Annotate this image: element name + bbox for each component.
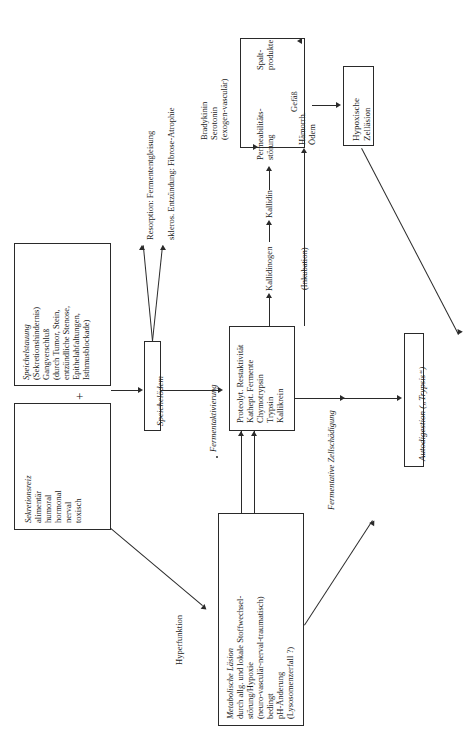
box-fermente-text: Proteolyt. Restaktivität Kathept. Fermen… — [236, 345, 286, 423]
text-line: Hypoxische — [351, 98, 362, 141]
text-line: (exogen-vasculär) — [220, 79, 230, 140]
connector-kallidin-to-permeabilitaet — [269, 168, 270, 190]
arrowhead-up — [266, 293, 272, 298]
connector-stauung-to-oedem — [111, 390, 138, 391]
connector-zellaesion-to-autodigestion — [361, 148, 459, 335]
label-kallidinogen: Kallidinogen — [265, 247, 274, 291]
text-line: Ödem — [308, 112, 318, 145]
text-line: störung — [266, 109, 276, 160]
arrowhead-right — [397, 395, 402, 401]
box-autodigestion-text: Autodigestion („Trypsis“) — [418, 367, 427, 461]
text-line: Zelläsion — [362, 98, 373, 141]
loop-right-vertical — [304, 38, 305, 148]
loop-left-vertical — [240, 38, 241, 148]
joint-dot — [216, 456, 218, 458]
connector-kallidinogen-to-kallidin — [269, 222, 270, 242]
arrowhead-down — [455, 329, 463, 336]
text-line: Kallikrein — [276, 345, 286, 423]
connector-oedem-to-resorption — [143, 245, 153, 341]
connector-laesion-to-fermente-a — [241, 431, 242, 513]
connector-fermente-to-autodigestion — [295, 398, 397, 399]
arrowhead-up — [160, 245, 166, 250]
arrowhead-right — [138, 387, 143, 393]
text-line: (Lysosomenzerfall ?) — [286, 596, 296, 719]
text-line: Isthmusblockade) — [82, 306, 92, 380]
box-speichelstauung-text: Speichelstauung (Sekretionshindernis) Ga… — [22, 306, 92, 380]
label-fermentaktivierung: Fermentaktivierung — [209, 384, 218, 452]
label-spaltprodukte: Spalt- produkte — [256, 40, 276, 70]
connector-sekretionsreiz-to-laesion — [110, 528, 203, 606]
box-metabolische-laesion-text: Metabolische Läsion durch allg. und loka… — [226, 596, 296, 719]
arrowhead-up — [139, 245, 145, 250]
text-line: toxisch — [74, 475, 84, 523]
label-permeabilitaetsstoerung: Permeabilitäts- störung — [256, 109, 276, 160]
label-resorption: Resorption: Fermententgleisung — [146, 131, 155, 240]
label-skleros-entzuendung: skleros. Entzündung: Fibrose-Atrophie — [167, 108, 176, 240]
plus-symbol: + — [76, 390, 83, 403]
text-line: produkte — [266, 40, 276, 70]
arrowhead-up — [251, 431, 257, 436]
label-fermentative-zellschaedigung: Fermentative Zellschädigung — [327, 410, 336, 510]
arrowhead-up — [369, 519, 377, 526]
connector-fermente-to-kallidinogen — [269, 295, 270, 326]
label-kallidin: Kallidin — [265, 190, 274, 218]
arrowhead-right — [253, 144, 258, 150]
connector-laesion-to-fermente-b — [254, 431, 255, 513]
connector-oedem-to-skleros — [152, 246, 163, 342]
arrowhead-right — [201, 604, 209, 612]
label-gefaess: Gefäß — [290, 91, 299, 112]
connector-laesion-to-autodigestion — [304, 520, 373, 625]
arrowhead-left — [297, 38, 302, 44]
label-haemorrh-oedem: Hämorrh. Ödem — [298, 112, 318, 145]
arrowhead-right — [336, 102, 341, 108]
arrowhead-up — [266, 166, 272, 171]
connector-inkubation — [304, 150, 305, 326]
box-hypoxische-zellaesion-text: Hypoxische Zelläsion — [351, 98, 372, 141]
box-speicheloedem-text: Speichelödem — [156, 376, 165, 426]
connector-laesion-branch — [241, 513, 255, 514]
label-hyperfunktion: Hyperfunktion — [175, 615, 184, 665]
label-bradykinin-group: Bradykinin Serotonin (exogen-vasculär) — [200, 79, 230, 140]
loop-top-horizontal — [240, 38, 304, 39]
box-sekretionsreiz-text: Sekretionsreiz alimentär humoral hormona… — [24, 475, 84, 523]
arrowhead-up — [266, 220, 272, 225]
connector-oedem-to-zellaesion — [312, 105, 336, 106]
arrowhead-right — [340, 395, 345, 401]
arrowhead-up — [301, 148, 307, 153]
arrowhead-right — [218, 387, 223, 393]
arrowhead-up — [238, 431, 244, 436]
loop-bottom-horizontal — [240, 147, 304, 148]
label-inkubation: (Inkubation) — [300, 248, 309, 291]
